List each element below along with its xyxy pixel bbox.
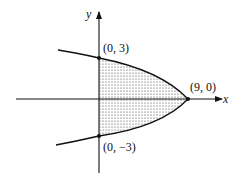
point-top-marker <box>97 56 101 60</box>
y-axis-label: y <box>85 7 92 21</box>
x-axis-label: x <box>222 92 229 106</box>
parabola-region-diagram: y x (0, 3) (9, 0) (0, −3) <box>0 0 244 181</box>
point-top-label: (0, 3) <box>103 41 129 55</box>
shaded-region <box>99 58 188 136</box>
point-vertex-marker <box>186 97 190 101</box>
point-bottom-label: (0, −3) <box>103 140 136 154</box>
point-bottom-marker <box>97 134 101 138</box>
point-vertex-label: (9, 0) <box>190 80 216 94</box>
